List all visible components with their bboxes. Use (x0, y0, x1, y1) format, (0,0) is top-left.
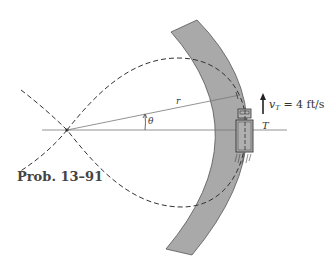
velocity-value: = 4 ft/s (280, 98, 325, 111)
figure-caption: Prob. 13–91 (17, 169, 103, 184)
velocity-label: vT = 4 ft/s (269, 98, 324, 112)
motion-streak (249, 154, 251, 161)
velocity-arrow-head (260, 93, 266, 100)
truck-body (236, 120, 253, 152)
diagram-svg (0, 0, 325, 263)
road-band (166, 20, 247, 255)
radius-label: r (176, 96, 180, 106)
dashed-path-lower-left (19, 130, 67, 172)
diagram: vT = 4 ft/s r θ T Prob. 13–91 (0, 0, 325, 263)
point-t-label: T (262, 120, 269, 131)
angle-label: θ (148, 116, 153, 126)
angle-arc (145, 115, 146, 130)
motion-streak (246, 154, 248, 163)
dashed-path-upper-left (21, 90, 67, 130)
